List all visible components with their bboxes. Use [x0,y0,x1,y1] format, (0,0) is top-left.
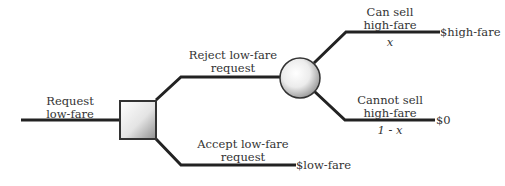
accept-label-line2: request [188,151,298,164]
outcome-zero: $0 [436,114,451,127]
can-sell-label-line2: high-fare [350,19,430,32]
cannot-sell-label-line2: high-fare [350,107,430,120]
cannot-sell-label: Cannot sell high-fare [350,94,430,120]
can-sell-probability: x [350,36,430,49]
can-sell-label: Can sell high-fare [350,6,430,32]
decision-node-square [120,101,156,139]
request-label: Request low-fare [40,95,100,121]
accept-label: Accept low-fare request [188,138,298,164]
reject-label-line2: request [178,62,288,75]
outcome-low-fare: $low-fare [296,159,351,172]
reject-branch-line [156,77,281,100]
request-label-line2: low-fare [40,108,100,121]
outcome-high-fare: $high-fare [440,26,500,39]
reject-label: Reject low-fare request [178,49,288,75]
cannot-sell-probability: 1 - x [350,124,430,137]
